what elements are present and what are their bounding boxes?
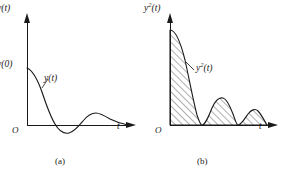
hatched-lobe-2	[202, 98, 238, 125]
hatched-lobe-3	[238, 110, 267, 125]
curve-label-b-arg: (t)	[203, 63, 212, 73]
x-axis-label-a: t	[117, 122, 120, 132]
origin-label-a: O	[12, 126, 19, 135]
y-axis-label-b: y2(t)	[144, 4, 160, 14]
y-axis-label-b-arg: (t)	[151, 3, 160, 13]
panel-a: y(t) y(0) y(t) O t (a)	[0, 0, 141, 180]
curve-y-of-t	[27, 68, 128, 133]
origin-label-b: O	[155, 126, 162, 135]
y-axis-label-a: y(t)	[0, 4, 10, 14]
figure-container: y(t) y(0) y(t) O t (a)	[0, 0, 283, 180]
y-intercept-label-a: y(0)	[0, 60, 12, 70]
x-axis-label-b: t	[259, 122, 262, 132]
panel-b: y2(t) y2(t) O t (b)	[142, 0, 283, 180]
curve-label-b: y2(t)	[196, 64, 212, 74]
curve-label-a: y(t)	[44, 74, 57, 84]
caption-b: (b)	[197, 156, 208, 166]
caption-a: (a)	[55, 156, 65, 166]
hatched-lobe-1	[170, 30, 202, 125]
